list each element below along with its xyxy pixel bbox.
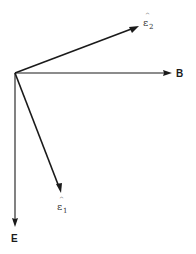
label-epsilon2: ^ ε 2: [143, 11, 153, 31]
vector-epsilon2: [15, 26, 139, 73]
arrowhead-icon: [163, 70, 172, 76]
vector-epsilon1-shaft: [15, 73, 59, 187]
vector-epsilon1: [15, 73, 62, 193]
label-epsilon-symbol: ε: [57, 201, 62, 212]
label-b: B: [176, 68, 183, 79]
label-epsilon-symbol: ε: [143, 17, 148, 28]
arrowhead-icon: [56, 183, 62, 193]
label-subscript: 1: [63, 207, 67, 215]
arrowhead-icon: [129, 26, 139, 33]
arrowhead-icon: [12, 218, 18, 227]
label-epsilon1: ^ ε 1: [57, 195, 67, 215]
label-subscript: 2: [149, 23, 153, 31]
label-e: E: [11, 233, 18, 244]
vector-diagram: ^ ε 2 B ^ ε 1 E: [0, 0, 196, 254]
vector-b: [15, 70, 172, 76]
vector-e: [12, 73, 18, 227]
vector-epsilon2-shaft: [15, 28, 134, 73]
